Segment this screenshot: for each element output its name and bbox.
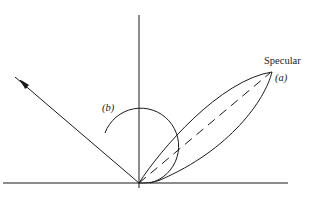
label-a: (a) <box>275 72 288 84</box>
incident-ray <box>15 77 139 183</box>
specular-label: Specular <box>264 55 301 66</box>
label-b: (b) <box>102 102 115 114</box>
specular-lobe <box>139 72 272 183</box>
specular-direction-line <box>139 73 270 183</box>
reflection-diagram: Specular (a) (b) <box>0 0 309 200</box>
